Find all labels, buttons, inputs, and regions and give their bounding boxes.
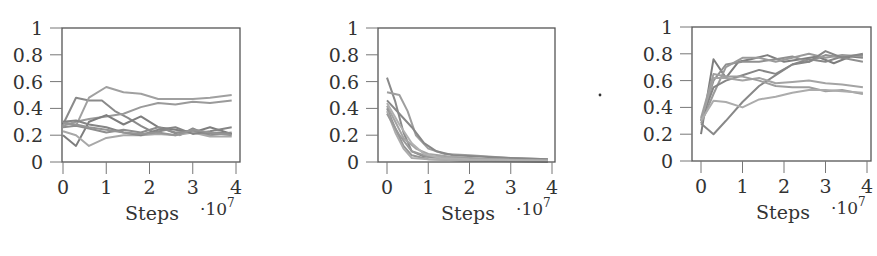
- y-tick-label: 0.2: [643, 123, 673, 145]
- x-tick-label: 3: [819, 175, 831, 197]
- y-tick-label: 0.6: [329, 71, 359, 93]
- x-tick-label: 4: [546, 176, 558, 198]
- series-lines: [701, 51, 863, 134]
- x-tick-label: 3: [505, 176, 517, 198]
- y-tick-label: 0.2: [329, 124, 359, 146]
- x-axis-label: Steps: [125, 202, 179, 224]
- y-tick-label: 0.2: [13, 124, 43, 146]
- series-line-run6: [701, 78, 863, 121]
- series-lines: [63, 87, 232, 146]
- y-axis: 00.20.40.60.81: [13, 17, 62, 173]
- y-tick-label: 0.8: [13, 44, 43, 66]
- y-tick-label: 0: [31, 151, 43, 173]
- x-tick-label: 1: [422, 176, 434, 198]
- x-tick-label: 1: [100, 176, 112, 198]
- chart-panel-2: 00.20.40.60.8101234Steps·107: [329, 17, 558, 224]
- x-axis-multiplier: ·107: [516, 196, 551, 219]
- stray-speck: [599, 94, 602, 97]
- series-line-run3: [701, 55, 863, 121]
- series-line-run8: [701, 90, 863, 121]
- y-tick-label: 0.4: [643, 96, 673, 118]
- x-axis: 01234: [57, 162, 242, 198]
- y-tick-label: 0.8: [329, 44, 359, 66]
- x-tick-label: 0: [695, 175, 707, 197]
- chart-panel-3: 00.20.40.60.8101234Steps·107: [643, 16, 873, 223]
- x-axis-label: Steps: [441, 202, 495, 224]
- y-tick-label: 1: [347, 17, 359, 39]
- x-tick-label: 2: [463, 176, 475, 198]
- y-tick-label: 0.8: [643, 43, 673, 65]
- series-lines: [387, 78, 548, 162]
- y-tick-label: 0: [661, 150, 673, 172]
- x-tick-label: 0: [57, 176, 69, 198]
- x-axis-multiplier: ·107: [831, 195, 866, 218]
- x-axis: 01234: [695, 161, 873, 197]
- series-line-run5: [387, 108, 548, 162]
- x-axis: 01234: [381, 162, 558, 198]
- x-tick-label: 4: [861, 175, 873, 197]
- y-axis: 00.20.40.60.81: [329, 17, 378, 173]
- y-tick-label: 0: [347, 151, 359, 173]
- x-tick-label: 3: [187, 176, 199, 198]
- x-tick-label: 0: [381, 176, 393, 198]
- figure: 00.20.40.60.8101234Steps·107 00.20.40.60…: [0, 0, 877, 256]
- series-line-run4: [387, 106, 548, 161]
- plot-frame: [62, 28, 240, 162]
- x-tick-label: 1: [736, 175, 748, 197]
- y-axis: 00.20.40.60.81: [643, 16, 692, 172]
- x-tick-label: 4: [230, 176, 242, 198]
- x-axis-label: Steps: [756, 201, 810, 223]
- y-tick-label: 0.6: [643, 70, 673, 92]
- plot-frame: [692, 27, 871, 161]
- y-tick-label: 1: [661, 16, 673, 38]
- y-tick-label: 0.4: [13, 97, 43, 119]
- y-tick-label: 0.4: [329, 97, 359, 119]
- chart-panel-1: 00.20.40.60.8101234Steps·107: [13, 17, 242, 224]
- y-tick-label: 1: [31, 17, 43, 39]
- y-tick-label: 0.6: [13, 71, 43, 93]
- x-axis-multiplier: ·107: [200, 196, 235, 219]
- x-tick-label: 2: [778, 175, 790, 197]
- x-tick-label: 2: [143, 176, 155, 198]
